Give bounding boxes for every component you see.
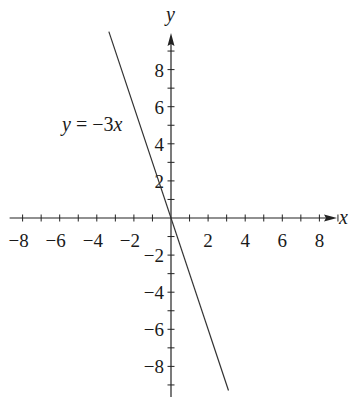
y-tick-label: −6 bbox=[144, 319, 164, 340]
y-tick-label: −8 bbox=[144, 356, 164, 377]
x-tick-label: 4 bbox=[240, 230, 250, 251]
equation-label-x: x bbox=[112, 113, 122, 135]
line-y-equals-neg-3x bbox=[109, 32, 229, 391]
equation-label: y = −3x bbox=[60, 113, 122, 136]
x-tick-label: 8 bbox=[315, 230, 325, 251]
y-tick-label: 8 bbox=[155, 60, 165, 81]
y-tick-label: 6 bbox=[155, 97, 165, 118]
x-tick-label: −4 bbox=[83, 230, 104, 251]
x-tick-label: 6 bbox=[278, 230, 288, 251]
x-tick-label: 2 bbox=[203, 230, 213, 251]
x-tick-label: −8 bbox=[8, 230, 28, 251]
x-axis-label: x bbox=[338, 206, 348, 228]
y-tick-label: −2 bbox=[144, 245, 164, 266]
equation-label-y: y bbox=[60, 113, 71, 136]
x-tick-label: −2 bbox=[120, 230, 140, 251]
coordinate-plane: −8−6−4−22468−8−6−4−22468 x y y = −3x bbox=[0, 0, 355, 397]
y-tick-label: 4 bbox=[155, 134, 165, 155]
y-tick-label: −4 bbox=[144, 282, 165, 303]
y-axis-label: y bbox=[164, 3, 175, 26]
equation-label-eq: = −3 bbox=[71, 113, 114, 135]
x-tick-label: −6 bbox=[46, 230, 66, 251]
